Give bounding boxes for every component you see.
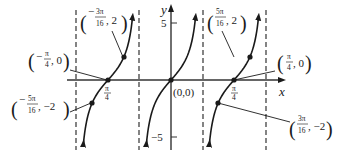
svg-text:): ) — [63, 50, 70, 73]
svg-text:π: π — [45, 49, 49, 58]
svg-text:, 0: , 0 — [51, 54, 63, 66]
point-neg-5pi16 — [89, 100, 94, 105]
svg-text:): ) — [63, 98, 70, 121]
svg-text:(: ( — [11, 98, 18, 121]
svg-text:4: 4 — [287, 63, 291, 72]
svg-text:): ) — [240, 12, 247, 35]
leader-lines — [70, 31, 290, 122]
svg-text:−: − — [19, 93, 25, 105]
point-5pi16 — [247, 54, 252, 59]
svg-text:): ) — [326, 118, 333, 141]
x-tick-pos-pi4: π 4 — [231, 84, 238, 102]
x-tick-neg-pi4: π 4 — [104, 84, 111, 102]
svg-text:4: 4 — [45, 60, 49, 69]
y-tick-label-5: 5 — [161, 17, 167, 29]
annotation-pos-pi4: ( π 4 , 0 ) — [277, 52, 312, 75]
annotation-neg-3pi16: ( − 3π 16 , 2 ) — [80, 5, 128, 35]
svg-text:4: 4 — [105, 93, 109, 102]
svg-text:(: ( — [80, 12, 87, 35]
svg-text:16: 16 — [28, 106, 36, 115]
annotation-pos-3pi16: ( 3π 16 , −2 ) — [289, 114, 333, 141]
annotation-neg-5pi16: ( − 5π 16 , −2 ) — [11, 93, 70, 121]
annotation-pos-5pi16: ( 5π 16 , 2 ) — [207, 7, 247, 35]
y-axis-label: y — [159, 2, 167, 17]
svg-text:): ) — [121, 12, 128, 35]
svg-text:(: ( — [28, 50, 35, 73]
svg-text:−: − — [36, 50, 42, 62]
point-pi4 — [231, 77, 236, 82]
svg-text:(: ( — [207, 12, 214, 35]
svg-text:16: 16 — [96, 19, 104, 28]
svg-text:, 2: , 2 — [106, 14, 117, 26]
svg-text:5π: 5π — [28, 94, 36, 103]
svg-text:(: ( — [289, 118, 296, 141]
svg-text:3π: 3π — [298, 114, 306, 123]
svg-text:π: π — [105, 84, 109, 93]
svg-text:5π: 5π — [216, 7, 224, 16]
point-neg-pi4 — [105, 77, 110, 82]
annotation-neg-pi4: ( − π 4 , 0 ) — [28, 49, 70, 73]
tangent-graph: y 5 −5 x π 4 π 4 ( − 3π — [0, 0, 342, 157]
svg-text:, −2: , −2 — [38, 100, 55, 112]
y-tick-label-neg5: −5 — [151, 131, 163, 143]
svg-text:): ) — [305, 52, 312, 75]
annotation-origin: (0,0) — [173, 86, 194, 99]
svg-text:π: π — [232, 84, 236, 93]
svg-text:(: ( — [277, 52, 284, 75]
point-neg-3pi16 — [121, 54, 126, 59]
svg-text:16: 16 — [298, 126, 306, 135]
svg-text:π: π — [287, 52, 291, 61]
svg-text:, 2: , 2 — [226, 14, 237, 26]
svg-text:, −2: , −2 — [308, 120, 325, 132]
point-3pi16 — [215, 100, 220, 105]
point-origin — [168, 77, 173, 82]
svg-text:16: 16 — [216, 19, 224, 28]
svg-text:−: − — [88, 5, 94, 17]
svg-text:4: 4 — [232, 93, 236, 102]
x-axis-label: x — [278, 84, 285, 99]
svg-text:, 0: , 0 — [293, 57, 305, 69]
svg-text:3π: 3π — [96, 7, 104, 16]
